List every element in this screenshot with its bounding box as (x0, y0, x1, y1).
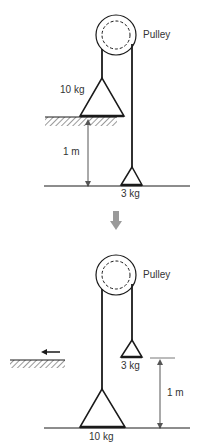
pulley-label-top: Pulley (143, 29, 170, 40)
shelf-top (45, 117, 117, 126)
after-state: Pulley 3 kg 1 m 10 kg (10, 255, 190, 442)
shelf-bottom (10, 360, 65, 368)
mass-10kg-bottom (80, 389, 125, 427)
down-arrow-icon (110, 211, 122, 230)
mass-3kg-label-bottom: 3 kg (121, 360, 140, 371)
mass-3kg-label-top: 3 kg (121, 188, 140, 199)
pulley-label-bottom: Pulley (143, 269, 170, 280)
height-label-bottom: 1 m (167, 387, 184, 398)
before-state: Pulley 10 kg 1 m 3 kg (44, 15, 190, 199)
height-label-top: 1 m (63, 146, 80, 157)
left-arrow-icon (41, 349, 60, 355)
pulley-diagram: Pulley 10 kg 1 m 3 kg Pulley (0, 0, 200, 448)
mass-3kg-bottom (121, 340, 142, 357)
mass-10kg-label-top: 10 kg (60, 84, 84, 95)
mass-3kg-top (121, 167, 142, 185)
mass-10kg-label-bottom: 10 kg (89, 431, 113, 442)
mass-10kg-top (80, 78, 124, 116)
